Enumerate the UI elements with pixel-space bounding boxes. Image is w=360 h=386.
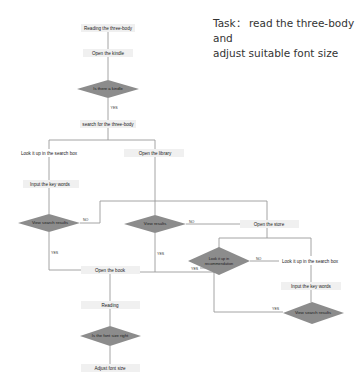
node-lookup-right-label: Look it up in the search box bbox=[282, 259, 339, 264]
node-lookup-left-label: Look it up in the search box bbox=[21, 151, 78, 156]
label-yes-reco: YES bbox=[191, 267, 199, 271]
label-no-reco: NO bbox=[256, 257, 262, 261]
decision-view-search-left-label: View search results bbox=[32, 220, 68, 225]
node-open-book-label: Open the book bbox=[95, 268, 126, 273]
flowchart: Reading the three-body Open the kindle I… bbox=[0, 0, 360, 386]
decision-font-right: Is the font size right bbox=[80, 326, 141, 346]
label-yes-kindle: YES bbox=[111, 106, 119, 110]
node-adjust-label: Adjust font size bbox=[94, 366, 126, 371]
label-yes-results: YES bbox=[157, 252, 165, 256]
node-adjust: Adjust font size bbox=[81, 364, 140, 372]
label-no-search-left: NO bbox=[83, 218, 89, 222]
node-input-left-label: Input the key words bbox=[30, 182, 71, 187]
label-yes-search-left: YES bbox=[51, 251, 59, 255]
node-start: Reading the three-body bbox=[81, 24, 135, 32]
node-input-right-label: Input the key words bbox=[291, 284, 332, 289]
node-open-book: Open the book bbox=[81, 266, 140, 274]
node-start-label: Reading the three-body bbox=[84, 26, 133, 31]
decision-is-kindle: Is there a kindle bbox=[77, 80, 139, 98]
connectors bbox=[49, 32, 311, 364]
decision-view-results: View results bbox=[124, 215, 186, 233]
node-input-left: Input the key words bbox=[23, 180, 79, 188]
decision-lookup-reco-label-2: recommendation bbox=[205, 262, 233, 266]
node-open-store: Open the store bbox=[240, 220, 299, 228]
decision-view-search-right: View search results bbox=[283, 302, 344, 324]
node-open-library: Open the library bbox=[124, 149, 184, 157]
label-yes-search-right: YES bbox=[272, 307, 280, 311]
decision-is-kindle-label: Is there a kindle bbox=[93, 86, 123, 91]
decision-view-search-right-label: View search results bbox=[295, 310, 331, 315]
node-open-library-label: Open the library bbox=[139, 151, 172, 156]
node-search: search for the three-body bbox=[80, 120, 136, 128]
node-open-store-label: Open the store bbox=[254, 222, 285, 227]
node-lookup-right: Look it up in the search box bbox=[279, 257, 341, 265]
decision-view-search-left: View search results bbox=[18, 214, 80, 232]
node-reading: Reading bbox=[81, 301, 140, 309]
node-search-label: search for the three-body bbox=[82, 122, 134, 127]
decision-view-results-label: View results bbox=[144, 221, 167, 226]
node-reading-label: Reading bbox=[101, 303, 119, 308]
node-input-right: Input the key words bbox=[281, 282, 341, 290]
node-open-kindle-label: Open the kindle bbox=[92, 51, 125, 56]
decision-font-right-label: Is the font size right bbox=[92, 333, 129, 338]
label-no-results: NO bbox=[189, 220, 195, 224]
decision-lookup-reco-label-1: Look it up in bbox=[209, 257, 229, 261]
node-lookup-left: Look it up in the search box bbox=[21, 149, 78, 157]
node-open-kindle: Open the kindle bbox=[83, 49, 133, 57]
